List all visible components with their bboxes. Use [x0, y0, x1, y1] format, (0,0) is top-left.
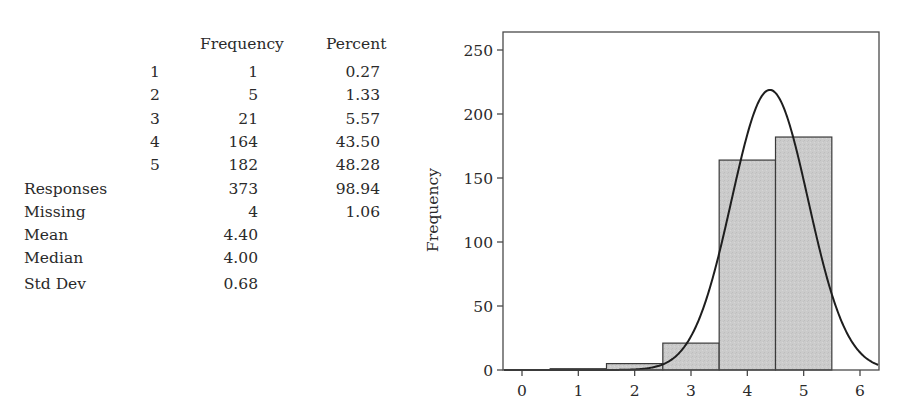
x-tick-label: 3: [686, 382, 696, 400]
y-tick-label: 200: [463, 106, 493, 124]
x-tick-label: 6: [855, 382, 865, 400]
y-tick-label: 50: [473, 298, 493, 316]
y-tick-label: 100: [463, 234, 493, 252]
histogram-bar-3: [663, 343, 719, 370]
y-tick-label: 150: [463, 170, 493, 188]
x-tick-label: 5: [799, 382, 809, 400]
x-tick-label: 1: [573, 382, 583, 400]
x-tick-label: 2: [630, 382, 640, 400]
y-axis-label: Frequency: [424, 168, 442, 252]
histogram-bar-4: [719, 160, 775, 370]
histogram-chart: 0501001502002500123456 Frequency: [0, 0, 903, 417]
y-tick-label: 250: [463, 42, 493, 60]
x-tick-label: 4: [742, 382, 752, 400]
x-tick-label: 0: [517, 382, 527, 400]
histogram-bar-5: [776, 137, 832, 370]
y-tick-label: 0: [483, 362, 493, 380]
